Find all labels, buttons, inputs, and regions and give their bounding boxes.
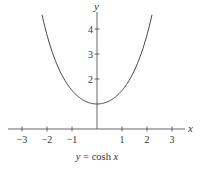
x-tick-label: 1 bbox=[120, 134, 125, 145]
ticks: −3−2−1123234 bbox=[17, 24, 175, 146]
axes bbox=[8, 12, 185, 129]
x-axis-label: x bbox=[187, 122, 193, 134]
y-tick-label: 4 bbox=[88, 24, 93, 35]
caption-var: x bbox=[113, 151, 119, 162]
cosh-chart: −3−2−1123234 x y y = cosh x bbox=[0, 0, 201, 170]
caption: y = cosh x bbox=[75, 151, 119, 162]
x-tick-label: −2 bbox=[42, 134, 53, 145]
x-tick-label: −3 bbox=[17, 134, 28, 145]
y-tick-label: 3 bbox=[88, 49, 93, 60]
x-tick-label: 3 bbox=[170, 134, 175, 145]
y-tick-label: 2 bbox=[88, 74, 93, 85]
x-tick-label: 2 bbox=[145, 134, 150, 145]
x-tick-label: −1 bbox=[67, 134, 78, 145]
caption-eq: = cosh bbox=[80, 151, 113, 162]
y-axis-label: y bbox=[93, 0, 99, 12]
